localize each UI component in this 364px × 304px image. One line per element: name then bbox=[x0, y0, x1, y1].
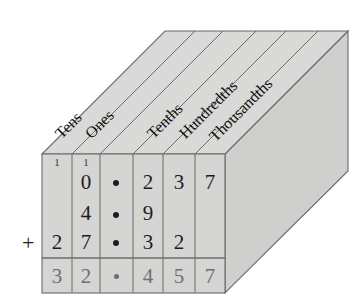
box-geometry bbox=[0, 0, 364, 304]
place-value-addition-diagram: Tens Ones Tenths Hundredths Thousandths … bbox=[0, 0, 364, 304]
